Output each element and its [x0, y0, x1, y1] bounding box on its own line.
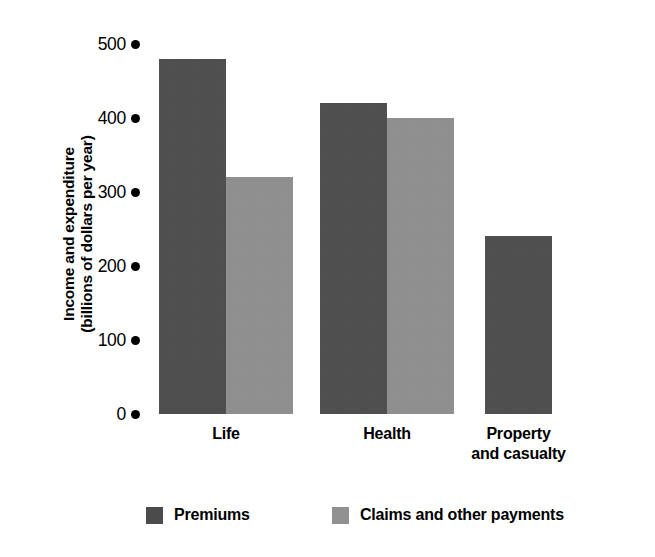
y-axis-tick: 300	[70, 182, 140, 202]
x-axis-label: Life	[136, 424, 316, 444]
x-axis-label: Propertyand casualty	[429, 424, 609, 464]
x-axis-label-line: Property	[429, 424, 609, 444]
bar-group	[485, 20, 619, 414]
y-axis-tick-dot-icon	[131, 410, 140, 419]
bar-health-claims	[387, 118, 454, 414]
bar-health-premiums	[320, 103, 387, 414]
x-axis-label-line: Life	[136, 424, 316, 444]
legend-swatch-icon	[332, 507, 349, 524]
y-axis-title: Income and expenditure (billions of doll…	[50, 34, 106, 434]
y-axis-tick: 0	[70, 404, 140, 424]
plot-area	[140, 20, 610, 414]
y-axis-tick-dot-icon	[131, 40, 140, 49]
y-axis-tick-label: 100	[98, 330, 126, 351]
y-axis-title-line-1: Income and expenditure	[60, 147, 78, 321]
y-axis-tick-label: 500	[98, 34, 126, 55]
bar-life-claims	[226, 177, 293, 414]
y-axis-tick: 200	[70, 256, 140, 276]
x-axis-label-line: and casualty	[429, 444, 609, 464]
y-axis-tick: 100	[70, 330, 140, 350]
bar-group	[159, 20, 293, 414]
y-axis-tick: 400	[70, 108, 140, 128]
bar-property-and-casualty-premiums	[485, 236, 552, 414]
bar-group	[320, 20, 454, 414]
legend-item-claims[interactable]: Claims and other payments	[332, 503, 564, 527]
legend-item-premiums[interactable]: Premiums	[146, 503, 250, 527]
y-axis-tick-label: 200	[98, 256, 126, 277]
legend-label: Claims and other payments	[360, 506, 564, 524]
legend-swatch-icon	[146, 507, 163, 524]
y-axis-tick-dot-icon	[131, 188, 140, 197]
y-axis-tick: 500	[70, 34, 140, 54]
bar-life-premiums	[159, 59, 226, 414]
bar-chart: Income and expenditure (billions of doll…	[0, 0, 655, 557]
y-axis-tick-dot-icon	[131, 336, 140, 345]
y-axis-tick-dot-icon	[131, 114, 140, 123]
y-axis-tick-label: 400	[98, 108, 126, 129]
y-axis-tick-dot-icon	[131, 262, 140, 271]
legend-label: Premiums	[174, 506, 250, 524]
y-axis-tick-label: 0	[117, 404, 126, 425]
chart-legend: PremiumsClaims and other payments	[0, 503, 655, 533]
y-axis-title-line-2: (billions of dollars per year)	[78, 135, 96, 332]
y-axis-tick-label: 300	[98, 182, 126, 203]
